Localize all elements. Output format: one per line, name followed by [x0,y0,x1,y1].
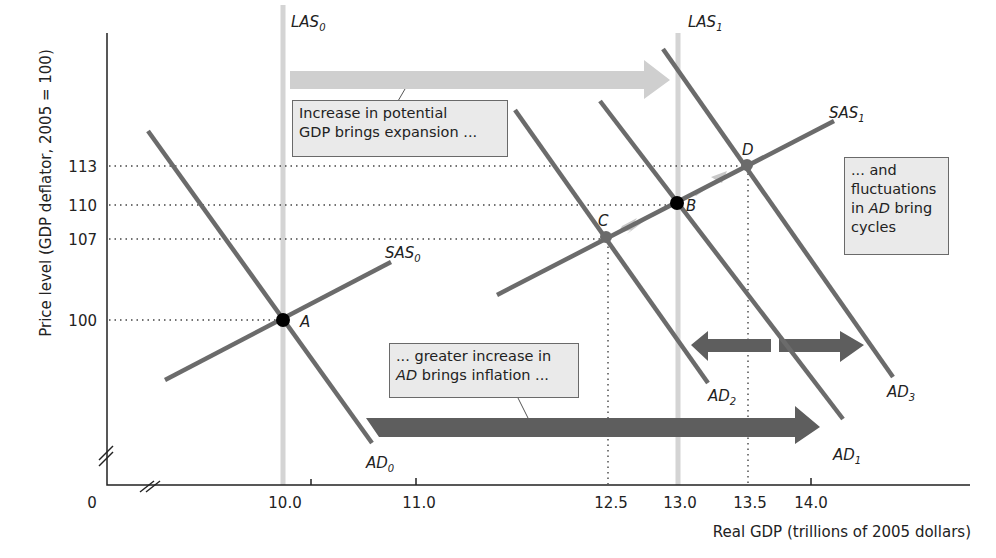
xtick-11: 11.0 [402,494,435,512]
las0-label: LAS0 [291,13,326,33]
x-axis-title: Real GDP (trillions of 2005 dollars) [713,523,971,541]
xtick-10: 10.0 [268,494,301,512]
xtick-14: 14.0 [794,494,827,512]
point-d-label: D [742,141,754,159]
point-c [600,231,612,243]
cycles-note-line3: in AD bring [851,199,942,218]
inflation-note: ... greater increase in AD brings inflat… [389,343,579,398]
xtick-13: 13.0 [663,494,696,512]
y-axis-title: Price level (GDP deflator, 2005 = 100) [37,49,55,337]
ad-increase-arrow [366,406,820,444]
expansion-note-line1: Increase in potential [299,104,501,123]
point-c-label: C [598,212,609,230]
cycles-note-line2: fluctuations [851,180,942,199]
inflation-callout-line [518,398,528,418]
point-a [276,313,290,327]
potential-gdp-arrow [290,60,670,99]
ad-as-diagram: 113 110 107 100 0 10.0 11.0 12.5 13.0 13… [0,0,996,558]
ytick-107: 107 [68,231,97,249]
cycles-note: ... and fluctuations in AD bring cycles [844,157,949,255]
expansion-note: Increase in potential GDP brings expansi… [292,100,508,157]
cycles-note-line4: cycles [851,218,942,237]
ytick-113: 113 [68,158,97,176]
xtick-13-5: 13.5 [733,494,766,512]
ad-cycle-right-arrow [779,331,864,362]
expansion-note-line2: GDP brings expansion ... [299,123,501,142]
ad0-label: AD0 [365,454,394,474]
ad1-label: AD1 [832,446,861,466]
inflation-note-line2: AD brings inflation ... [396,366,572,385]
las1-label: LAS1 [688,13,723,33]
ad3-label: AD3 [886,383,915,403]
sas1-label: SAS1 [829,104,865,124]
ytick-100: 100 [68,312,97,330]
point-a-label: A [299,313,310,331]
inflation-note-line1: ... greater increase in [396,347,572,366]
point-b [670,196,684,210]
xtick-12-5: 12.5 [594,494,627,512]
cycles-note-line1: ... and [851,161,942,180]
point-b-label: B [686,197,696,215]
ad2-label: AD2 [707,387,736,407]
ad-cycle-left-arrow [691,331,771,361]
sas0-label: SAS0 [385,244,421,264]
origin-label: 0 [87,494,97,512]
ytick-110: 110 [68,197,97,215]
point-d [741,159,753,171]
sas1-curve [497,121,834,295]
ad1-curve [600,101,843,419]
